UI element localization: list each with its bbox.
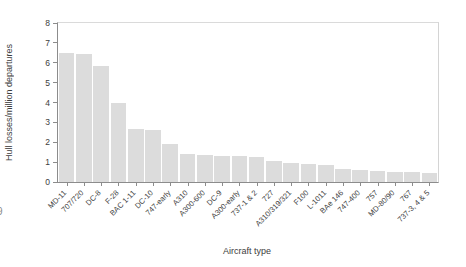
x-tick [360,183,361,186]
x-tick [84,183,85,186]
x-tick [67,183,68,186]
bar [301,164,317,182]
bar [318,165,334,182]
x-tick [395,183,396,186]
y-tick [53,62,57,63]
x-tick [136,183,137,186]
x-tick [326,183,327,186]
bar [352,170,368,182]
y-tick [53,82,57,83]
x-tick [257,183,258,186]
x-tick [308,183,309,186]
y-tick-label: 3 [45,118,50,127]
bar [232,156,248,182]
bar [59,53,75,182]
y-tick [53,23,57,24]
x-tick [274,183,275,186]
y-tick [53,142,57,143]
x-tick [429,183,430,186]
bar [266,161,282,182]
y-axis-title: Hull losses/million departures [4,15,14,190]
y-tick-label: 0 [45,178,50,187]
x-tick [188,183,189,186]
page-edge-artifact-glyph: 9 [0,206,3,217]
bar [197,155,213,182]
y-tick [53,102,57,103]
x-tick [222,183,223,186]
y-tick-label: 4 [45,98,50,107]
x-tick [343,183,344,186]
y-tick [53,122,57,123]
bar [422,173,438,182]
y-tick-label: 5 [45,78,50,87]
bar [111,103,127,183]
x-tick [205,183,206,186]
bar [180,154,196,182]
bar [93,66,109,182]
bar [404,172,420,182]
bar [387,172,403,182]
bar [162,144,178,182]
x-tick [153,183,154,186]
bar [249,157,265,182]
x-tick [170,183,171,186]
y-tick [53,42,57,43]
x-axis-title: Aircraft type [57,246,437,256]
bar [335,169,351,182]
bar [283,163,299,182]
y-tick-label: 2 [45,138,50,147]
x-tick [291,183,292,186]
bar [370,171,386,182]
y-tick-label: 1 [45,158,50,167]
y-tick [53,162,57,163]
y-tick-label: 8 [45,19,50,28]
bar [145,130,161,182]
y-tick [53,182,57,183]
x-tick [101,183,102,186]
x-tick-label: DC-8 [85,189,103,207]
x-tick [412,183,413,186]
x-tick [378,183,379,186]
hull-losses-bar-chart: Hull losses/million departures 012345678… [0,0,466,267]
y-tick-label: 7 [45,39,50,48]
plot-area: 012345678MD-11707/720DC-8F-28BAC 1-11DC-… [57,22,439,183]
x-tick [118,183,119,186]
bar [128,129,144,182]
y-tick-label: 6 [45,59,50,68]
bar [214,156,230,182]
bar [76,54,92,182]
x-tick [239,183,240,186]
